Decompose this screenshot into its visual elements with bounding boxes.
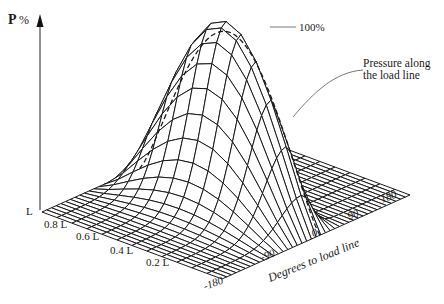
pressure-surface-figure: P % 100% Pressure along the load line L … <box>0 0 444 304</box>
length-tick-0.8L: 0.8 L <box>44 218 68 230</box>
pressure-axis-label: P <box>8 12 17 27</box>
pressure-axis-unit: % <box>19 13 29 27</box>
peak-label: 100% <box>299 21 325 33</box>
annotation-leader-line <box>293 70 363 117</box>
annotation-line-2: the load line <box>363 69 420 81</box>
length-tick-0.6L: 0.6 L <box>76 230 100 242</box>
axis-arrow-icon <box>37 14 44 27</box>
length-tick-0.2L: 0.2 L <box>146 256 170 268</box>
length-tick-L: L <box>26 205 33 217</box>
length-tick-0.4L: 0.4 L <box>110 244 134 256</box>
